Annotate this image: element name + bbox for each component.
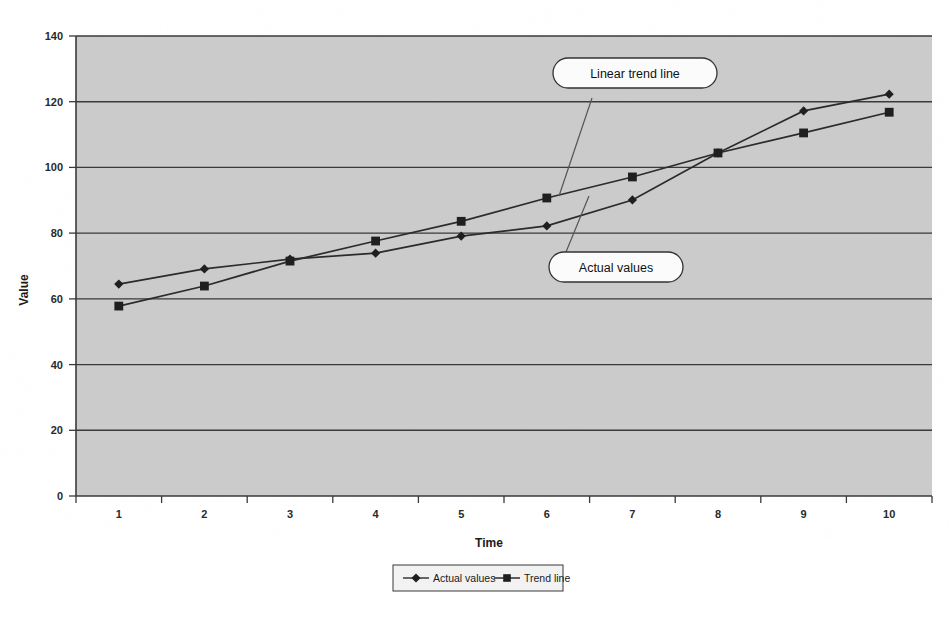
- callout-label-trend: Linear trend line: [590, 67, 680, 81]
- data-point-square-marker[interactable]: [200, 282, 209, 291]
- legend-label-actual: Actual values: [433, 572, 495, 584]
- x-tick-label: 6: [544, 508, 550, 520]
- legend-label-trend: Trend line: [524, 572, 570, 584]
- data-point-square-marker[interactable]: [714, 149, 723, 158]
- x-axis-title: Time: [475, 536, 503, 550]
- x-tick-label: 4: [373, 508, 380, 520]
- x-tick-label: 9: [801, 508, 807, 520]
- data-point-square-marker[interactable]: [457, 217, 466, 226]
- x-tick-label: 1: [116, 508, 122, 520]
- callout-label-actual: Actual values: [579, 261, 653, 275]
- data-point-square-marker[interactable]: [628, 173, 637, 182]
- chart-legend: Actual values Trend line: [393, 565, 570, 591]
- x-tick-label: 8: [715, 508, 721, 520]
- y-tick-label: 100: [45, 161, 63, 173]
- y-tick-label: 140: [45, 30, 63, 42]
- y-tick-label: 0: [57, 490, 63, 502]
- y-tick-label: 120: [45, 96, 63, 108]
- y-tick-label: 60: [51, 293, 63, 305]
- data-point-square-marker[interactable]: [371, 237, 380, 246]
- x-tick-label: 2: [201, 508, 207, 520]
- x-tick-label: 10: [883, 508, 895, 520]
- x-tick-label: 7: [629, 508, 635, 520]
- legend-marker-square-icon: [503, 574, 511, 582]
- data-point-square-marker[interactable]: [286, 257, 295, 266]
- y-axis-title: Value: [17, 274, 31, 306]
- line-chart-figure: 140 120 100 80 60 40 20 0 1 2 3 4 5 6 7 …: [0, 0, 950, 627]
- y-tick-label: 80: [51, 227, 63, 239]
- x-tick-label: 5: [458, 508, 464, 520]
- data-point-square-marker[interactable]: [114, 302, 123, 311]
- data-point-square-marker[interactable]: [542, 194, 551, 203]
- y-tick-label: 20: [51, 424, 63, 436]
- data-point-square-marker[interactable]: [885, 108, 894, 117]
- y-tick-label: 40: [51, 359, 63, 371]
- chart-canvas: 140 120 100 80 60 40 20 0 1 2 3 4 5 6 7 …: [0, 0, 950, 627]
- data-point-square-marker[interactable]: [799, 129, 808, 138]
- x-tick-label: 3: [287, 508, 293, 520]
